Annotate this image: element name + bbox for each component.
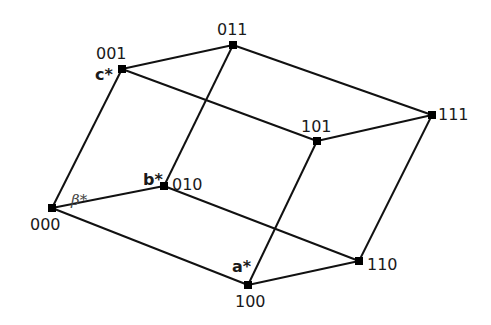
label-010: 010 [172, 175, 203, 194]
vertex-011 [229, 41, 237, 49]
vertex-101 [313, 137, 321, 145]
edge-100-101 [248, 141, 317, 285]
label-c-star: c* [95, 65, 113, 84]
label-111: 111 [438, 105, 469, 124]
label-001: 001 [96, 44, 127, 63]
label-a-star: a* [232, 257, 252, 276]
label-b-star: b* [143, 170, 163, 189]
edge-000-100 [52, 208, 248, 285]
vertex-100 [244, 281, 252, 289]
edge-001-011 [122, 45, 233, 69]
axis-labels: a* b* c* β* [70, 65, 252, 276]
label-101: 101 [301, 117, 332, 136]
label-beta-star: β* [70, 191, 88, 209]
edge-010-110 [164, 186, 359, 261]
edge-011-111 [233, 45, 432, 115]
reciprocal-lattice-diagram: 000 100 010 001 110 011 101 111 a* b* c*… [0, 0, 491, 325]
vertex-000 [48, 204, 56, 212]
label-011: 011 [217, 20, 248, 39]
edge-101-111 [317, 115, 432, 141]
vertex-111 [428, 111, 436, 119]
label-000: 000 [30, 215, 61, 234]
edge-100-110 [248, 261, 359, 285]
vertex-110 [355, 257, 363, 265]
edge-001-101 [122, 69, 317, 141]
edge-010-011 [164, 45, 233, 186]
edge-000-010 [52, 186, 164, 208]
edge-000-001 [52, 69, 122, 208]
label-100: 100 [235, 292, 266, 311]
edge-110-111 [359, 115, 432, 261]
vertex-001 [118, 65, 126, 73]
label-110: 110 [367, 255, 398, 274]
